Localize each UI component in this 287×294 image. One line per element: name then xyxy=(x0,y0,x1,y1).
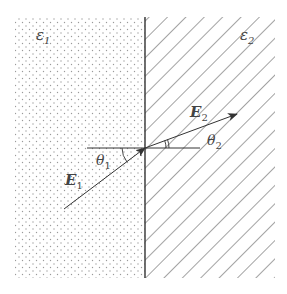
refraction-diagram: ε1 ε2 E1 E2 θ1 θ2 xyxy=(0,0,287,294)
